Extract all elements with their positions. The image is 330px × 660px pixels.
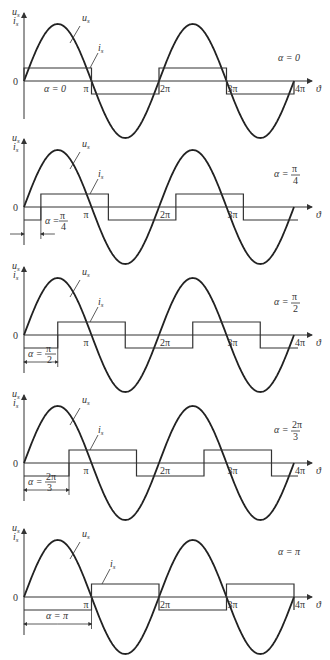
alpha-dimension-denominator: 2 xyxy=(47,354,52,365)
origin-label: 0 xyxy=(13,330,18,341)
alpha-title-denominator: 4 xyxy=(293,175,298,186)
is-leader-line xyxy=(90,53,98,68)
current-curve-label: is xyxy=(98,424,104,437)
tick-label-2pi: 2π xyxy=(160,337,170,348)
y-axis-label-us-sub: s xyxy=(17,265,20,273)
voltage-curve-label-sub: s xyxy=(87,143,90,151)
panel-2: usis0ϑπ2π3πusisα =π4α =π4 xyxy=(10,132,322,264)
panel-1: usis0ϑπ2π3π4πusisα = 0α = 0 xyxy=(12,6,322,138)
voltage-curve-label: us xyxy=(82,266,90,279)
alpha-dimension-numerator: 2π xyxy=(46,471,56,482)
voltage-curve-label: us xyxy=(82,394,90,407)
panel-5: usis0ϑπ2π3π4πusisα = πα = π xyxy=(12,522,322,654)
is-leader-line xyxy=(90,435,98,450)
x-axis-label: ϑ xyxy=(316,465,322,476)
current-curve-label-sub: s xyxy=(101,429,104,437)
x-axis-label: ϑ xyxy=(316,337,322,348)
voltage-curve-label: us xyxy=(82,528,90,541)
panel-4: usis0ϑπ2π3π4πusisα =2π3α =2π3 xyxy=(12,388,322,520)
y-axis-label-is-sub: s xyxy=(16,20,19,28)
current-curve-label: is xyxy=(98,42,104,55)
tick-label-1pi: π xyxy=(84,465,89,476)
current-curve-label-sub: s xyxy=(101,301,104,309)
alpha-dimension-label: α = xyxy=(45,215,60,226)
alpha-dimension-label: α = xyxy=(28,348,43,359)
tick-label-2pi: 2π xyxy=(160,599,170,610)
y-axis-label-is-sub: s xyxy=(16,274,19,282)
waveform-figure: usis0ϑπ2π3π4πusisα = 0α = 0usis0ϑπ2π3πus… xyxy=(0,0,330,660)
y-axis-label-is-sub: s xyxy=(16,146,19,154)
alpha-title-label: α = xyxy=(274,424,289,435)
tick-label-4pi: 4π xyxy=(295,465,305,476)
tick-label-4pi: 4π xyxy=(295,83,305,94)
panel-3: usis0ϑπ2π3π4πusisα =π2α =π2 xyxy=(12,260,322,392)
current-curve-label: is xyxy=(98,168,104,181)
voltage-curve-label-sub: s xyxy=(87,399,90,407)
y-axis-label-us-sub: s xyxy=(17,137,20,145)
tick-label-1pi: π xyxy=(84,83,89,94)
origin-label: 0 xyxy=(13,76,18,87)
x-axis-label: ϑ xyxy=(316,209,322,220)
tick-label-1pi: π xyxy=(84,599,89,610)
tick-label-4pi: 4π xyxy=(295,599,305,610)
alpha-title-numerator: 2π xyxy=(292,419,302,430)
alpha-title-denominator: 2 xyxy=(293,303,298,314)
origin-label: 0 xyxy=(13,592,18,603)
voltage-curve-label-sub: s xyxy=(87,271,90,279)
origin-label: 0 xyxy=(13,202,18,213)
is-leader-line xyxy=(102,569,110,584)
alpha-dimension-numerator: π xyxy=(46,343,51,354)
tick-label-1pi: π xyxy=(84,337,89,348)
x-axis-label: ϑ xyxy=(316,83,322,94)
voltage-curve-label-sub: s xyxy=(87,17,90,25)
y-axis-label-us-sub: s xyxy=(17,11,20,19)
current-curve-label-sub: s xyxy=(101,173,104,181)
current-curve-label: is xyxy=(110,558,116,571)
is-leader-line xyxy=(90,179,98,194)
y-axis-label-is-sub: s xyxy=(16,536,19,544)
alpha-title-denominator: 3 xyxy=(293,431,298,442)
y-axis-label-us-sub: s xyxy=(17,393,20,401)
y-axis-label-us-sub: s xyxy=(17,527,20,535)
current-curve-label-sub: s xyxy=(101,47,104,55)
alpha-dimension-label: α = π xyxy=(46,610,69,621)
alpha-title-label: α = π xyxy=(278,546,301,557)
tick-label-2pi: 2π xyxy=(160,83,170,94)
alpha-title-numerator: π xyxy=(292,163,297,174)
tick-label-4pi: 4π xyxy=(295,337,305,348)
tick-label-2pi: 2π xyxy=(160,209,170,220)
alpha-dimension-denominator: 3 xyxy=(47,482,52,493)
current-curve-label-sub: s xyxy=(113,563,116,571)
alpha-title-label: α = 0 xyxy=(278,52,300,63)
alpha-dimension-numerator: π xyxy=(60,210,65,221)
origin-label: 0 xyxy=(13,458,18,469)
alpha-dimension-denominator: 4 xyxy=(61,221,66,232)
alpha-dimension-label: α = xyxy=(28,476,43,487)
voltage-curve-label: us xyxy=(82,12,90,25)
alpha-title-label: α = xyxy=(274,296,289,307)
alpha-title-numerator: π xyxy=(292,291,297,302)
tick-label-2pi: 2π xyxy=(160,465,170,476)
y-axis-label-is-sub: s xyxy=(16,402,19,410)
alpha-title-label: α = xyxy=(274,168,289,179)
x-axis-label: ϑ xyxy=(316,599,322,610)
voltage-curve-label-sub: s xyxy=(87,533,90,541)
is-leader-line xyxy=(90,307,98,322)
voltage-curve-label: us xyxy=(82,138,90,151)
current-curve-label: is xyxy=(98,296,104,309)
tick-label-1pi: π xyxy=(84,209,89,220)
alpha-dimension-label: α = 0 xyxy=(44,83,66,94)
